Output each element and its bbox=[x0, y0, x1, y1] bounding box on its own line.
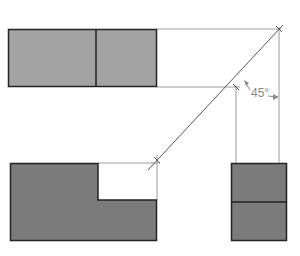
projection-drawing bbox=[0, 0, 300, 256]
top-view bbox=[9, 30, 157, 87]
side-view bbox=[232, 164, 287, 241]
front-view bbox=[11, 164, 157, 241]
angle-label: 45° bbox=[251, 86, 269, 100]
